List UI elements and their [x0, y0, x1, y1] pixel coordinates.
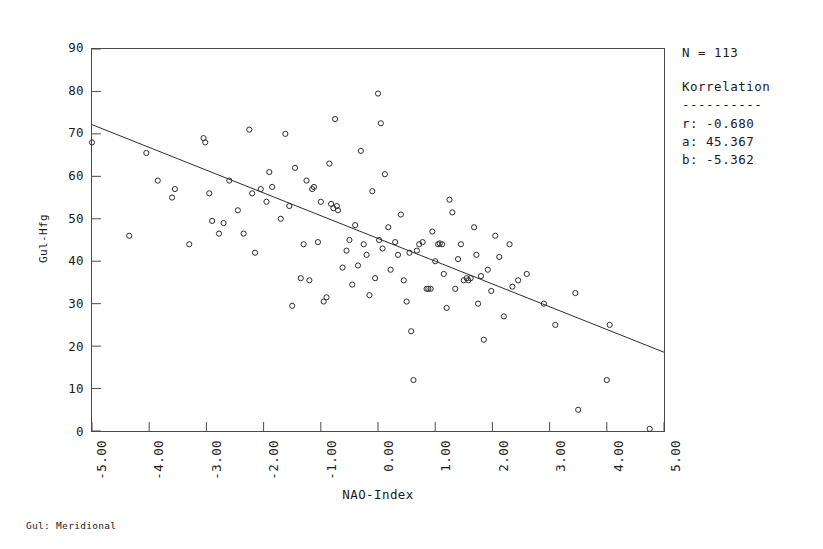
x-tick-label-2: -3.00: [211, 440, 224, 480]
x-tick-label-3: -2.00: [268, 440, 281, 480]
correlation-heading: Korrelation: [682, 78, 812, 96]
x-tick-label-4: -1.00: [326, 440, 339, 480]
x-tick-label-1: -4.00: [153, 440, 166, 480]
regression-b-value: b: -5.362: [682, 151, 812, 169]
x-tick-label-6: 1.00: [440, 440, 453, 472]
x-tick-label-10: 5.00: [670, 440, 683, 472]
x-axis-title: NAO-Index: [41, 487, 715, 502]
correlation-r-value: r: -0.680: [682, 115, 812, 133]
sample-size-label: N = 113: [682, 44, 812, 62]
x-tick-label-5: 0.00: [383, 440, 396, 472]
figure-caption: Gul: Meridional: [26, 520, 116, 531]
x-tick-label-7: 2.00: [498, 440, 511, 472]
statistics-panel: N = 113 Korrelation ---------- r: -0.680…: [682, 44, 812, 169]
x-tick-label-0: -5.00: [96, 440, 109, 480]
x-tick-label-9: 4.00: [613, 440, 626, 472]
correlation-divider: ----------: [682, 96, 812, 114]
scatter-plot-figure: 0102030405060708090 Gul-Hfg -5.00-4.00-3…: [0, 0, 823, 549]
regression-a-value: a: 45.367: [682, 133, 812, 151]
x-tick-label-8: 3.00: [555, 440, 568, 472]
